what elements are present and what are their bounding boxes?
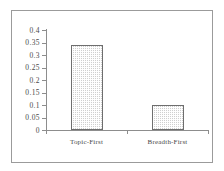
y-axis-tick-label: 0.15 (0, 89, 40, 97)
chart-figure: 0.4 0.35 0.3 0.25 0.2 0.15 0.1 0.05 0 To… (0, 0, 224, 171)
x-axis-tick (208, 131, 209, 134)
x-axis-category-label-0: Topic-First (46, 139, 127, 146)
y-axis-tick-label: 0.25 (0, 64, 40, 72)
x-axis-tick (127, 131, 128, 134)
bar-breadth-first (152, 105, 184, 130)
y-axis-tick-label: 0.3 (0, 52, 40, 60)
y-axis-tick-label: 0 (0, 127, 40, 135)
x-axis-category-label-1: Breadth-First (127, 139, 208, 146)
y-axis-tick-label: 0.05 (0, 114, 40, 122)
y-axis-tick-label: 0.1 (0, 102, 40, 110)
x-axis-tick (46, 131, 47, 134)
y-axis-tick-label: 0.4 (0, 27, 40, 35)
bar-topic-first (71, 45, 103, 130)
y-axis-tick-label: 0.2 (0, 77, 40, 85)
y-axis-tick-label: 0.35 (0, 39, 40, 47)
plot-area (46, 30, 208, 130)
